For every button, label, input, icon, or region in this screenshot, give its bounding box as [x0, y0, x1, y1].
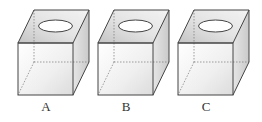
cube-b: B — [98, 10, 169, 114]
cube-a: A — [18, 10, 89, 114]
cube-c: C — [178, 10, 249, 114]
cube-label-a: A — [41, 99, 51, 114]
cube-label-b: B — [122, 99, 131, 114]
cube-label-c: C — [202, 99, 211, 114]
cubes-diagram: A B C — [0, 0, 262, 122]
